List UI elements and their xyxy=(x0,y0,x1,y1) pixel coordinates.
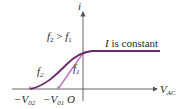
f2-label: f2 xyxy=(37,65,44,79)
frequency-relation-label: f2 > f1 xyxy=(47,30,72,44)
x-axis-label: VAC xyxy=(160,83,176,97)
y-axis-label: i xyxy=(78,0,81,12)
photoelectric-diagram: i VAC O f2 > f1 I is constant f2 f1 −V02… xyxy=(0,0,188,109)
stopping-voltage-v02-label: −V02 xyxy=(14,93,36,107)
plateau-label: I is constant xyxy=(104,37,158,49)
f2-curve xyxy=(30,51,160,89)
stopping-voltage-v01-label: −V01 xyxy=(43,93,64,107)
origin-label: O xyxy=(67,93,75,105)
